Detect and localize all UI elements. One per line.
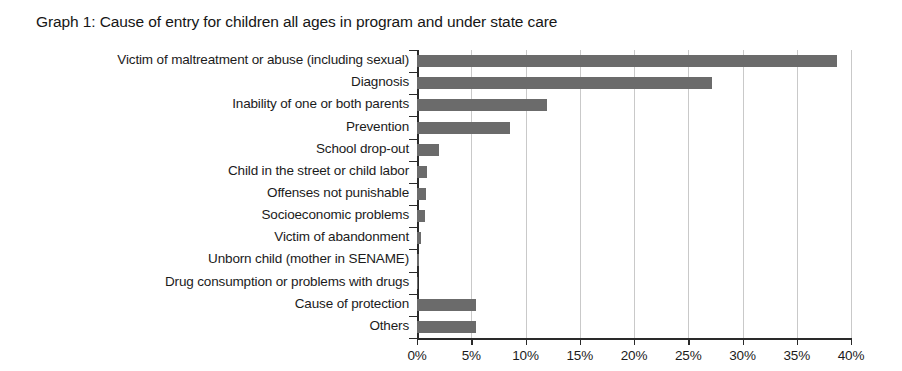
x-axis-tick: [526, 338, 527, 345]
bar: [417, 55, 837, 67]
chart-container: Graph 1: Cause of entry for children all…: [0, 0, 902, 371]
y-axis-tick: [409, 116, 417, 117]
x-axis-tick-label: 0%: [407, 348, 426, 363]
category-label: Inability of one or both parents: [0, 97, 409, 111]
plot-area: [417, 50, 851, 338]
gridline: [688, 50, 689, 338]
gridline: [743, 50, 744, 338]
gridline: [580, 50, 581, 338]
category-label: Drug consumption or problems with drugs: [0, 275, 409, 289]
category-label: Victim of maltreatment or abuse (includi…: [0, 53, 409, 67]
bar: [417, 232, 421, 244]
bar: [417, 254, 419, 266]
y-axis-tick: [409, 316, 417, 317]
category-label: Cause of protection: [0, 297, 409, 311]
y-axis-tick: [409, 183, 417, 184]
category-label: School drop-out: [0, 142, 409, 156]
chart-title: Graph 1: Cause of entry for children all…: [36, 13, 557, 31]
bar: [417, 122, 510, 134]
bar: [417, 210, 425, 222]
x-axis-tick-label: 40%: [838, 348, 864, 363]
x-axis-tick-label: 35%: [784, 348, 810, 363]
bar: [417, 277, 418, 289]
bar: [417, 144, 439, 156]
gridline: [634, 50, 635, 338]
x-axis-tick: [797, 338, 798, 345]
bar: [417, 77, 712, 89]
x-axis-tick: [417, 338, 418, 345]
y-axis-tick: [409, 249, 417, 250]
gridline: [797, 50, 798, 338]
y-axis-tick: [409, 227, 417, 228]
y-axis-tick: [409, 205, 417, 206]
bar: [417, 99, 547, 111]
x-axis-tick: [688, 338, 689, 345]
y-axis-tick: [409, 272, 417, 273]
x-axis-tick: [580, 338, 581, 345]
bar: [417, 166, 427, 178]
category-label: Offenses not punishable: [0, 186, 409, 200]
category-label: Victim of abandonment: [0, 230, 409, 244]
y-axis-tick: [409, 161, 417, 162]
category-label: Child in the street or child labor: [0, 164, 409, 178]
x-axis-tick-label: 25%: [675, 348, 701, 363]
y-axis-tick: [409, 94, 417, 95]
gridline: [851, 50, 852, 338]
y-axis-tick: [409, 294, 417, 295]
category-label: Unborn child (mother in SENAME): [0, 252, 409, 266]
x-axis-tick-label: 20%: [621, 348, 647, 363]
gridline: [526, 50, 527, 338]
category-label: Socioeconomic problems: [0, 208, 409, 222]
x-axis-tick: [851, 338, 852, 345]
x-axis-tick-label: 30%: [729, 348, 755, 363]
bar: [417, 299, 476, 311]
category-label: Others: [0, 319, 409, 333]
gridline: [471, 50, 472, 338]
y-axis-tick: [409, 338, 417, 339]
x-axis-tick-label: 15%: [567, 348, 593, 363]
x-axis-tick: [743, 338, 744, 345]
bar: [417, 188, 426, 200]
x-axis-tick-label: 10%: [512, 348, 538, 363]
y-axis-tick: [409, 50, 417, 51]
y-axis-tick: [409, 72, 417, 73]
x-axis-tick: [471, 338, 472, 345]
category-label: Prevention: [0, 120, 409, 134]
bar: [417, 321, 476, 333]
x-axis-tick-label: 5%: [462, 348, 481, 363]
x-axis-tick: [634, 338, 635, 345]
y-axis-tick: [409, 139, 417, 140]
category-axis-labels: Victim of maltreatment or abuse (includi…: [0, 50, 409, 338]
category-label: Diagnosis: [0, 75, 409, 89]
